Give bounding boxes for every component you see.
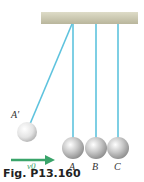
ball-c xyxy=(107,137,129,159)
string-a-prime xyxy=(30,24,72,124)
label-b: B xyxy=(92,161,98,172)
ball-b xyxy=(85,137,107,159)
label-a-prime: A′ xyxy=(11,109,19,120)
ball-a-prime xyxy=(17,122,37,142)
ball-a xyxy=(62,137,84,159)
support-bar xyxy=(41,12,138,24)
label-c: C xyxy=(114,161,121,172)
pendulum-diagram xyxy=(0,0,144,182)
figure-caption: Fig. P13.160 xyxy=(3,167,81,180)
